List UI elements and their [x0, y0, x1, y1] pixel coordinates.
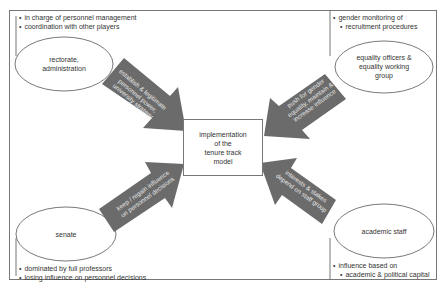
rectorate-label-line: rectorate, [24, 55, 104, 64]
senate-note: losing influence on personnel decisions [19, 273, 146, 282]
equality-label-line: group [344, 71, 424, 80]
center-label-line: of the [199, 139, 246, 148]
rectorate-notes: in charge of personnel management coordi… [19, 13, 137, 31]
equality-note: gender monitoring of [333, 13, 417, 22]
rectorate-note: coordination with other players [19, 22, 137, 31]
center-label-line: implementation [199, 130, 246, 139]
academic-staff-notes: influence based on academic & political … [333, 261, 430, 279]
academic-staff-note-continued: academic & political capital [333, 270, 430, 279]
equality-note-continued: recruitment procedures [333, 22, 417, 31]
senate-note: dominated by full professors [19, 264, 146, 273]
rectorate-note: in charge of personnel management [19, 13, 137, 22]
academic-staff-label: academic staff [344, 227, 424, 236]
equality-label-line: equality officers & [344, 53, 424, 62]
tenure-track-model-box: implementation of the tenure track model [183, 119, 263, 176]
equality-notes: gender monitoring of recruitment procedu… [333, 13, 417, 31]
equality-label-line: equality working [344, 62, 424, 71]
senate-label-line: senate [26, 230, 106, 239]
center-label-line: model [199, 157, 246, 166]
center-label-line: tenure track [199, 148, 246, 157]
equality-label: equality officers & equality working gro… [344, 53, 424, 80]
academic-staff-note: influence based on [333, 261, 430, 270]
academic-staff-label-line: academic staff [344, 227, 424, 236]
rectorate-label-line: administration [24, 64, 104, 73]
rectorate-label: rectorate, administration [24, 55, 104, 73]
senate-label: senate [26, 230, 106, 239]
senate-notes: dominated by full professors losing infl… [19, 264, 146, 282]
